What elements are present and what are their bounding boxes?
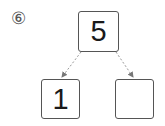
part-box-right-answer[interactable] [115,79,154,119]
part-box-left: 1 [41,79,80,119]
part-value-left: 1 [52,83,68,116]
whole-value: 5 [90,15,106,48]
arrow-left [62,52,81,77]
whole-box: 5 [78,11,119,52]
arrow-right [116,52,133,77]
